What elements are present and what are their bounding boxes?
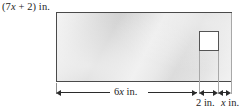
arrowhead-width-right [192,90,197,96]
width-label-unit: in. [124,86,137,97]
extension-line-right-edge [231,13,232,94]
segment-x-label: x in. [221,97,239,108]
segment-2in-label: 2 in. [196,97,215,108]
segment-x-unit: in. [226,97,239,108]
arrowhead-x-right [226,90,231,96]
geometry-figure: (7x + 2) in. 6x in. 2 in. x in. [0,0,249,111]
square-cutout [199,31,219,51]
dimension-line-width-right [148,92,197,93]
height-dimension-label: (7x + 2) in. [2,1,50,12]
height-label-prefix: (7 [2,1,11,12]
arrowhead-x-left [218,90,223,96]
dimension-line-width-left [58,92,110,93]
height-label-suffix: + 2) in. [16,1,50,12]
arrowhead-width-left [56,90,61,96]
width-dimension-label: 6x in. [112,86,139,97]
arrowhead-2in-left [199,90,204,96]
